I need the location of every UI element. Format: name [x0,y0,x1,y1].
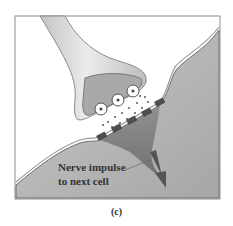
synapse-diagram [0,0,233,226]
figure-caption: (c) [0,206,233,217]
impulse-label-line1: Nerve impulse [58,162,126,173]
impulse-label-line2: to next cell [58,176,109,187]
